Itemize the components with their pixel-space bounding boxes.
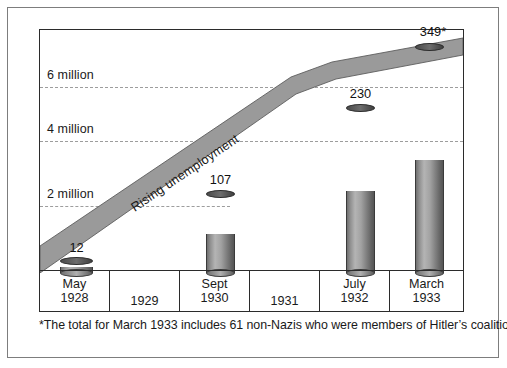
category-cell-may-1928: May 1928 [40,271,110,311]
cylinder-top [415,43,444,51]
category-year: 1933 [412,291,440,305]
category-cell-sept-1930: Sept 1930 [180,271,250,311]
cylinder-body [346,191,375,274]
bar-value-july-1932: 230 [350,86,371,101]
category-year: 1932 [340,291,368,305]
category-year: 1930 [200,291,228,305]
cylinder-body [415,160,444,273]
category-year: 1931 [270,294,298,308]
bar-value-march-1933: 349* [420,24,446,39]
cylinder-top [346,104,375,112]
cylinder-body [206,234,235,274]
category-month: Sept [202,277,228,291]
category-cell-1931: 1931 [250,271,320,311]
cylinder-top [206,190,235,198]
cylinder-sept-1930 [206,194,235,273]
category-axis-row: May 1928 1929 Sept 1930 1931 July 1932 M… [40,270,463,311]
bar-value-sept-1930: 107 [210,172,231,187]
cylinder-march-1933 [415,47,444,273]
cylinder-july-1932 [346,108,375,273]
bar-march-1933: 349* [415,45,444,273]
category-year: 1929 [130,294,158,308]
bar-sept-1930: 107 [206,192,235,273]
cylinder-top [60,257,93,265]
category-cell-1929: 1929 [110,271,180,311]
category-month: July [343,277,365,291]
chart-plot-frame: 6 million 4 million 2 million Rising une… [39,29,464,312]
bar-july-1932: 230 [346,106,375,273]
category-month: March [409,277,444,291]
chart-figure: 6 million 4 million 2 million Rising une… [0,0,507,368]
chart-footnote: *The total for March 1933 includes 61 no… [39,318,479,332]
category-cell-july-1932: July 1932 [320,271,390,311]
bar-value-may-1928: 12 [69,240,83,255]
category-cell-march-1933: March 1933 [390,271,463,311]
category-year: 1928 [60,291,88,305]
rising-unemployment-band [40,30,463,273]
category-month: May [63,277,87,291]
plot-region: 6 million 4 million 2 million Rising une… [40,30,463,273]
